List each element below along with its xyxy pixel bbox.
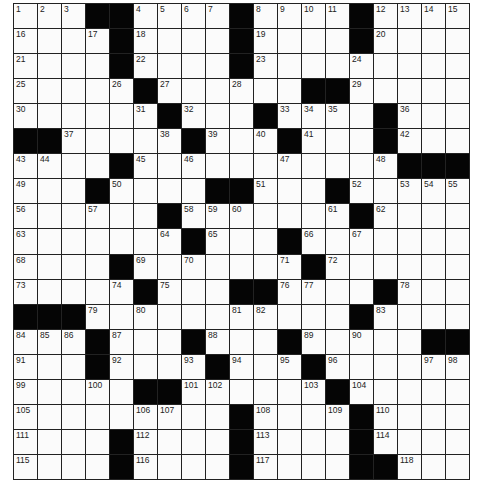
grid-cell[interactable] (278, 29, 301, 53)
grid-cell[interactable] (398, 255, 421, 279)
grid-cell[interactable] (110, 204, 133, 228)
grid-cell[interactable] (158, 355, 181, 379)
grid-cell[interactable] (38, 455, 61, 479)
grid-cell[interactable]: 102 (206, 380, 229, 404)
grid-cell[interactable]: 106 (134, 405, 157, 429)
grid-cell[interactable]: 90 (350, 330, 373, 354)
grid-cell[interactable] (374, 54, 397, 78)
grid-cell[interactable]: 1 (14, 4, 37, 28)
grid-cell[interactable] (86, 154, 109, 178)
grid-cell[interactable] (422, 104, 445, 128)
grid-cell[interactable]: 15 (446, 4, 469, 28)
grid-cell[interactable] (86, 280, 109, 304)
grid-cell[interactable]: 91 (14, 355, 37, 379)
grid-cell[interactable]: 22 (134, 54, 157, 78)
grid-cell[interactable] (62, 204, 85, 228)
grid-cell[interactable]: 35 (326, 104, 349, 128)
grid-cell[interactable] (134, 179, 157, 203)
grid-cell[interactable] (398, 330, 421, 354)
grid-cell[interactable] (38, 79, 61, 103)
grid-cell[interactable] (38, 104, 61, 128)
grid-cell[interactable]: 107 (158, 405, 181, 429)
grid-cell[interactable] (158, 54, 181, 78)
grid-cell[interactable] (350, 255, 373, 279)
grid-cell[interactable] (422, 280, 445, 304)
grid-cell[interactable] (230, 255, 253, 279)
grid-cell[interactable] (446, 305, 469, 329)
grid-cell[interactable]: 99 (14, 380, 37, 404)
grid-cell[interactable] (278, 430, 301, 454)
grid-cell[interactable] (38, 179, 61, 203)
grid-cell[interactable] (86, 129, 109, 153)
grid-cell[interactable] (110, 229, 133, 253)
grid-cell[interactable] (278, 79, 301, 103)
grid-cell[interactable]: 62 (374, 204, 397, 228)
grid-cell[interactable] (38, 405, 61, 429)
grid-cell[interactable]: 70 (182, 255, 205, 279)
grid-cell[interactable] (62, 380, 85, 404)
grid-cell[interactable] (230, 154, 253, 178)
grid-cell[interactable] (206, 154, 229, 178)
grid-cell[interactable]: 94 (230, 355, 253, 379)
grid-cell[interactable]: 50 (110, 179, 133, 203)
grid-cell[interactable] (398, 54, 421, 78)
grid-cell[interactable]: 93 (182, 355, 205, 379)
grid-cell[interactable]: 55 (446, 179, 469, 203)
grid-cell[interactable] (302, 29, 325, 53)
grid-cell[interactable] (278, 405, 301, 429)
grid-cell[interactable]: 43 (14, 154, 37, 178)
grid-cell[interactable]: 26 (110, 79, 133, 103)
grid-cell[interactable] (38, 54, 61, 78)
grid-cell[interactable]: 85 (38, 330, 61, 354)
grid-cell[interactable]: 71 (278, 255, 301, 279)
grid-cell[interactable]: 101 (182, 380, 205, 404)
grid-cell[interactable] (326, 154, 349, 178)
grid-cell[interactable] (38, 204, 61, 228)
grid-cell[interactable]: 29 (350, 79, 373, 103)
grid-cell[interactable] (38, 430, 61, 454)
grid-cell[interactable] (374, 179, 397, 203)
grid-cell[interactable]: 69 (134, 255, 157, 279)
grid-cell[interactable] (110, 305, 133, 329)
grid-cell[interactable] (86, 54, 109, 78)
grid-cell[interactable]: 33 (278, 104, 301, 128)
grid-cell[interactable]: 17 (86, 29, 109, 53)
grid-cell[interactable]: 92 (110, 355, 133, 379)
grid-cell[interactable] (62, 280, 85, 304)
grid-cell[interactable]: 36 (398, 104, 421, 128)
grid-cell[interactable]: 113 (254, 430, 277, 454)
grid-cell[interactable] (350, 355, 373, 379)
grid-cell[interactable]: 61 (326, 204, 349, 228)
grid-cell[interactable]: 9 (278, 4, 301, 28)
grid-cell[interactable]: 60 (230, 204, 253, 228)
grid-cell[interactable] (110, 104, 133, 128)
grid-cell[interactable] (374, 380, 397, 404)
grid-cell[interactable] (398, 229, 421, 253)
grid-cell[interactable] (158, 430, 181, 454)
grid-cell[interactable] (398, 355, 421, 379)
grid-cell[interactable] (446, 29, 469, 53)
grid-cell[interactable] (254, 380, 277, 404)
grid-cell[interactable] (398, 305, 421, 329)
grid-cell[interactable] (110, 380, 133, 404)
grid-cell[interactable]: 65 (206, 229, 229, 253)
grid-cell[interactable] (182, 430, 205, 454)
grid-cell[interactable]: 52 (350, 179, 373, 203)
grid-cell[interactable]: 28 (230, 79, 253, 103)
grid-cell[interactable] (62, 355, 85, 379)
grid-cell[interactable] (182, 305, 205, 329)
grid-cell[interactable]: 81 (230, 305, 253, 329)
grid-cell[interactable] (230, 104, 253, 128)
grid-cell[interactable] (422, 204, 445, 228)
grid-cell[interactable] (278, 204, 301, 228)
grid-cell[interactable] (206, 455, 229, 479)
grid-cell[interactable] (206, 255, 229, 279)
grid-cell[interactable]: 4 (134, 4, 157, 28)
grid-cell[interactable] (62, 54, 85, 78)
grid-cell[interactable] (206, 305, 229, 329)
grid-cell[interactable] (62, 79, 85, 103)
grid-cell[interactable]: 87 (110, 330, 133, 354)
grid-cell[interactable] (398, 405, 421, 429)
grid-cell[interactable]: 31 (134, 104, 157, 128)
grid-cell[interactable] (398, 29, 421, 53)
